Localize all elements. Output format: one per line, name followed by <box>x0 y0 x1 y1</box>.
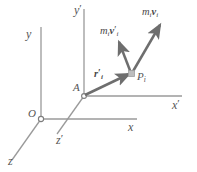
axis-label-z: z <box>8 155 13 167</box>
axis-label-x: x <box>128 121 133 133</box>
particle-label-P: Pi <box>137 71 146 84</box>
velocity-subscript-relative: i <box>116 30 118 38</box>
prime-mark-z: ′ <box>61 132 64 144</box>
physics-diagram-figure: y x z O y′ x′ z′ A Pi r′i miv′i mivi <box>0 0 197 172</box>
prime-mark-x: ′ <box>177 97 180 109</box>
position-vector-arrow <box>85 74 129 95</box>
velocity-subscript-absolute: i <box>156 11 158 19</box>
axis-label-y: y <box>26 28 31 40</box>
origin-label-O: O <box>28 108 36 119</box>
particle-point-marker <box>129 71 135 77</box>
fixed-frame-axes <box>12 27 137 160</box>
z-axis-line <box>12 119 41 160</box>
vector-label-relative-momentum: miv′i <box>100 25 118 39</box>
prime-mark-y: ′ <box>79 2 82 14</box>
origin-O-marker <box>38 116 43 121</box>
relative-momentum-vector-arrow <box>119 42 131 73</box>
particle-label-subscript: i <box>144 75 146 84</box>
vector-label-position-subscript: i <box>101 73 103 81</box>
absolute-momentum-vector-arrow <box>132 25 160 73</box>
axis-label-z-prime: z′ <box>56 133 63 146</box>
diagram-canvas <box>0 0 197 172</box>
axis-label-y-prime: y′ <box>74 3 82 16</box>
vector-label-absolute-momentum: mivi <box>142 7 158 19</box>
moving-frame-axes <box>57 9 182 134</box>
z-prime-axis-line <box>57 96 84 134</box>
vector-group <box>85 25 160 95</box>
axis-label-x-prime: x′ <box>172 98 180 111</box>
origin-label-A: A <box>73 82 80 93</box>
vector-label-position: r′i <box>94 68 103 82</box>
